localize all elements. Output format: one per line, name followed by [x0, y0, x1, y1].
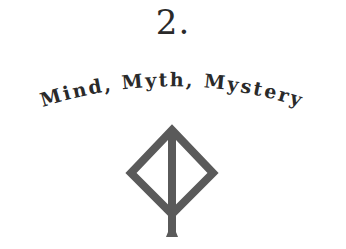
chapter-title: Mind, Myth, Mystery [37, 68, 306, 111]
chapter-title-arc: Mind, Myth, Mystery [0, 0, 346, 249]
rune-diamond-stem-icon [131, 130, 213, 237]
